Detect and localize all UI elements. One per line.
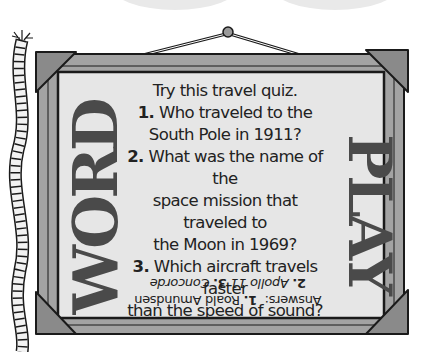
- question-1: 1. Who traveled to the: [120, 102, 330, 124]
- question-2: 2. What was the name of the: [120, 146, 330, 190]
- quiz-intro: Try this travel quiz.: [120, 80, 330, 102]
- answers-line-1: Answers: 1. Roald Amundsen: [128, 292, 328, 309]
- nail-icon: [223, 27, 233, 37]
- answers-line-2: 2. Apollo 11 3. Concorde: [128, 275, 328, 292]
- title-play: PLAY: [335, 113, 405, 313]
- hanging-string: [143, 34, 300, 55]
- answers-upside-down: Answers: 1. Roald Amundsen 2. Apollo 11 …: [128, 275, 328, 309]
- rope-icon: [12, 30, 33, 352]
